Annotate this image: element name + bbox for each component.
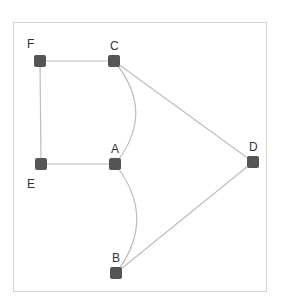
edge-c-d [114,61,253,162]
node-d[interactable]: D [247,140,259,168]
nodes-group: ABCDEF [27,37,259,279]
node-e[interactable]: E [27,158,47,191]
node-f[interactable]: F [27,37,46,67]
node-a[interactable]: A [109,142,121,170]
node-label: B [112,251,120,265]
graph-diagram: ABCDEF [0,0,285,305]
node-label: A [111,142,119,156]
edge-f-e [40,61,41,164]
node-c[interactable]: C [108,39,120,67]
node-label: E [27,177,35,191]
node-square-icon[interactable] [247,156,259,168]
node-b[interactable]: B [110,251,122,279]
node-square-icon[interactable] [108,55,120,67]
node-square-icon[interactable] [34,55,46,67]
edges-group [40,61,253,273]
node-square-icon[interactable] [109,158,121,170]
diagram-frame [14,23,267,292]
node-square-icon[interactable] [35,158,47,170]
node-label: F [27,37,34,51]
node-square-icon[interactable] [110,267,122,279]
node-label: C [110,39,119,53]
node-label: D [249,140,258,154]
